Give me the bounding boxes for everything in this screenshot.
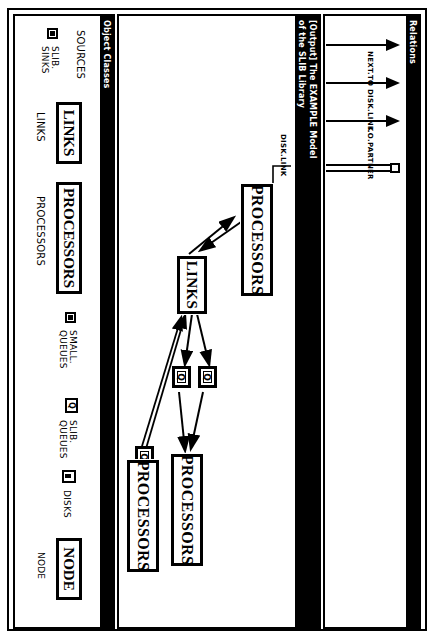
queue-glyph-icon: Q	[175, 369, 188, 385]
edge-label-disk-link: DISK.LINK	[279, 134, 287, 177]
object-classes-panel-body[interactable]: SOURCES SLIB.SINKS LINKS LINKS	[15, 16, 100, 627]
class-item-label-text: SMALL.QUEUES	[58, 330, 78, 369]
edge-proc-top-to-links	[201, 222, 241, 250]
sink-icon	[47, 28, 58, 39]
arrow-head-icon	[386, 39, 400, 51]
arrow-head-icon	[386, 115, 400, 127]
object-classes-panel-title: Object Classes	[100, 16, 113, 627]
queue-glyph-icon: Q	[201, 369, 214, 385]
model-canvas-title-line2: of the SLIB Library	[296, 20, 307, 627]
class-item-label: SLIB.QUEUES	[58, 420, 78, 459]
relations-panel-body[interactable]: NEXT.TO DISK.LINK I.O.PARTNER	[325, 16, 406, 627]
model-canvas-title-line1: [Output] The EXAMPLE Model	[307, 20, 318, 627]
class-item-label-text: SLIB.SINKS	[40, 46, 60, 74]
class-item-label: DISKS	[62, 490, 72, 518]
class-item-slib-sinks[interactable]: SLIB.SINKS	[49, 28, 60, 39]
application-window: Relations NEXT.TO DISK.LINK I.O.PARTNER	[7, 8, 427, 631]
class-item-label: SOURCES	[75, 30, 86, 79]
model-canvas-title: [Output] The EXAMPLE Model of the SLIB L…	[295, 16, 319, 627]
class-item-label: NODE	[36, 552, 46, 579]
class-item-disks[interactable]: DISKS	[60, 470, 74, 483]
model-canvas-body[interactable]: PROCESSORS LINKS Q Q PROCESSORS	[119, 16, 295, 627]
class-item-label: LINKS	[35, 112, 46, 142]
node-label: LINKS	[184, 261, 201, 310]
class-item-links-box[interactable]: LINKS	[56, 102, 82, 164]
class-item-node-box[interactable]: NODE	[56, 538, 82, 600]
class-item-label: PROCESSORS	[61, 188, 78, 288]
class-item-processors-box[interactable]: PROCESSORS	[56, 182, 82, 294]
class-item-label: SMALL.QUEUES	[58, 330, 78, 369]
queue-icon: Q	[65, 398, 78, 413]
disk-icon	[62, 470, 76, 483]
queue-small-icon	[65, 312, 76, 323]
node-processors-bottom[interactable]: PROCESSORS	[127, 460, 159, 572]
object-classes-panel: Object Classes SOURCES SLIB.SINKS LINKS	[13, 14, 115, 629]
node-processors-top[interactable]: PROCESSORS	[241, 184, 273, 296]
node-label: PROCESSORS	[248, 185, 266, 296]
edge-queue-lower-to-proc-right	[179, 392, 185, 450]
relation-pair-connector[interactable]	[326, 164, 400, 173]
node-queue-upper[interactable]: Q	[198, 366, 217, 388]
relations-panel: Relations NEXT.TO DISK.LINK I.O.PARTNER	[323, 14, 421, 629]
connector-line-b	[326, 170, 391, 172]
edge-links-to-queue-upper	[197, 314, 209, 364]
relation-label: NEXT.TO	[366, 51, 374, 86]
relation-line	[326, 82, 388, 84]
connector-line-a	[326, 164, 391, 166]
relation-label: DISK.LINK	[366, 89, 374, 132]
relation-line	[326, 120, 388, 122]
class-item-small-queues[interactable]: SMALL.QUEUES	[67, 312, 78, 323]
relations-panel-title: Relations	[406, 16, 419, 627]
connector-cap-icon	[390, 163, 400, 173]
class-item-label: PROCESSORS	[35, 196, 46, 266]
node-links[interactable]: LINKS	[177, 256, 207, 314]
model-canvas-panel: [Output] The EXAMPLE Model of the SLIB L…	[117, 14, 321, 629]
edge-links-to-queue-lower	[185, 314, 192, 364]
relation-line	[326, 44, 388, 46]
node-processors-right[interactable]: PROCESSORS	[171, 454, 203, 566]
class-item-label: SLIB.SINKS	[40, 46, 60, 74]
edge-links-to-proc-top	[189, 218, 233, 254]
rotated-screen-stage: Relations NEXT.TO DISK.LINK I.O.PARTNER	[0, 0, 433, 639]
edge-queue-upper-to-proc-right	[191, 392, 203, 448]
class-item-label: LINKS	[61, 110, 78, 157]
node-label: PROCESSORS	[134, 461, 152, 572]
class-item-label-text: SLIB.QUEUES	[58, 420, 78, 459]
class-item-label: NODE	[61, 547, 78, 590]
arrow-head-icon	[386, 77, 400, 89]
node-queue-lower[interactable]: Q	[172, 366, 191, 388]
node-label: PROCESSORS	[178, 455, 196, 566]
